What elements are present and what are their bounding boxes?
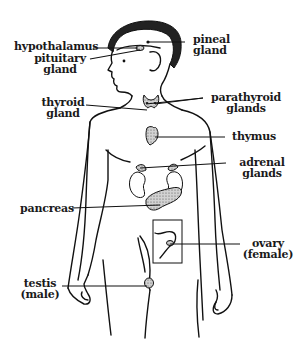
label-testis-male: testis (male)	[20, 278, 60, 300]
label-thyroid-gland: thyroid gland	[38, 97, 88, 119]
label-hypothalamus: hypothalamus	[14, 41, 94, 52]
label-ovary-female: ovary (female)	[240, 238, 296, 260]
label-pineal-gland: pineal gland	[193, 34, 253, 56]
torso-left	[78, 108, 120, 280]
pancreas-gland	[146, 187, 182, 210]
label-pancreas: pancreas	[20, 203, 80, 214]
label-parathyroid-glands: parathyroid glands	[205, 92, 287, 114]
neck-left	[120, 96, 132, 108]
left-arm-inner	[88, 150, 108, 275]
thymus-gland	[146, 127, 158, 146]
kidney-left	[129, 172, 145, 198]
right-arm-outer	[210, 132, 232, 295]
right-arm-inner	[195, 150, 203, 320]
leader-adrenal	[140, 163, 226, 168]
thyroid-gland	[143, 95, 159, 108]
hair-shape	[108, 21, 181, 68]
eye	[123, 60, 126, 63]
rib-left	[106, 150, 130, 162]
right-leg	[197, 280, 199, 337]
label-thymus: thymus	[232, 131, 292, 142]
back-of-head	[161, 64, 171, 96]
left-leg	[103, 260, 111, 335]
inner-leg	[145, 290, 150, 338]
ovary-gland	[167, 241, 174, 246]
adrenal-right	[168, 164, 178, 171]
label-adrenal-glands: adrenal glands	[232, 157, 292, 179]
head-outline	[108, 50, 132, 96]
ear-outline	[150, 52, 161, 71]
rib-right	[181, 146, 205, 160]
label-pituitary-gland: pituitary gland	[30, 53, 90, 75]
